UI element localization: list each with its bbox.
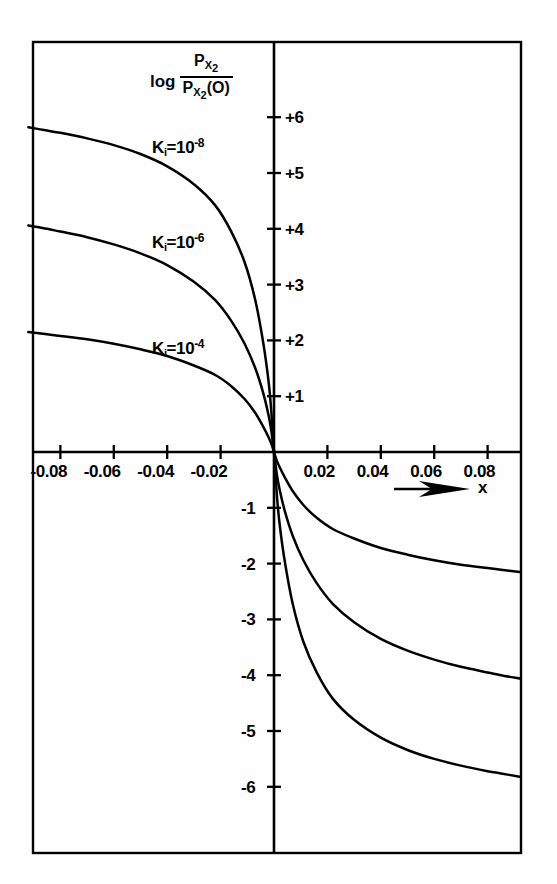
curve-label: Ki=10-6 (152, 232, 204, 253)
curve-label: Ki=10-4 (152, 338, 204, 359)
y-axis-title-fraction: PX2 PX2(O) (180, 52, 233, 101)
y-axis-title-numerator: PX2 (191, 52, 221, 75)
y-axis-title-log: log (150, 62, 176, 92)
y-axis-title-denominator: PX2(O) (180, 79, 233, 102)
y-tick-label-positive: +4 (285, 221, 304, 238)
curve-label-symbol: K (152, 233, 164, 252)
curve-label-symbol: K (152, 339, 164, 358)
x-tick-label: 0.04 (357, 463, 389, 480)
curve-label-exponent: -4 (194, 337, 204, 351)
y-tick-label-negative: -5 (241, 723, 255, 740)
curve-label-value: =10 (167, 138, 195, 157)
fraction-bar (180, 76, 233, 78)
y-tick-label-positive: +1 (285, 388, 304, 405)
y-tick-label-negative: -6 (241, 779, 255, 796)
y-tick-label-negative: -1 (241, 500, 255, 517)
x-tick-label: 0.02 (303, 463, 335, 480)
y-tick-label-negative: -2 (241, 556, 255, 573)
y-tick-label-negative: -3 (241, 611, 255, 628)
figure-container: log PX2 PX2(O) x -0.08-0.06-0.04-0.020.0… (0, 0, 557, 884)
x-axis-name: x (478, 479, 487, 496)
x-direction-arrow-icon (394, 481, 470, 497)
curve-label-value: =10 (167, 339, 195, 358)
y-tick-label-positive: +3 (285, 277, 304, 294)
x-tick-label: 0.08 (464, 463, 496, 480)
x-tick-label: -0.04 (137, 463, 174, 480)
x-tick-label: -0.08 (30, 463, 67, 480)
curve-label-exponent: -8 (194, 136, 204, 150)
x-tick-label: -0.06 (84, 463, 121, 480)
y-tick-label-positive: +6 (285, 109, 304, 126)
x-tick-label: -0.02 (191, 463, 228, 480)
y-tick-label-positive: +5 (285, 165, 304, 182)
curve-label: Ki=10-8 (152, 137, 204, 158)
x-tick-label: 0.06 (410, 463, 442, 480)
curve-label-value: =10 (167, 233, 195, 252)
curve-label-exponent: -6 (194, 231, 204, 245)
curve-label-symbol: K (152, 138, 164, 157)
y-tick-label-positive: +2 (285, 332, 304, 349)
plot-canvas (0, 0, 557, 884)
y-tick-label-negative: -4 (241, 667, 255, 684)
y-axis-title: log PX2 PX2(O) (150, 52, 233, 101)
